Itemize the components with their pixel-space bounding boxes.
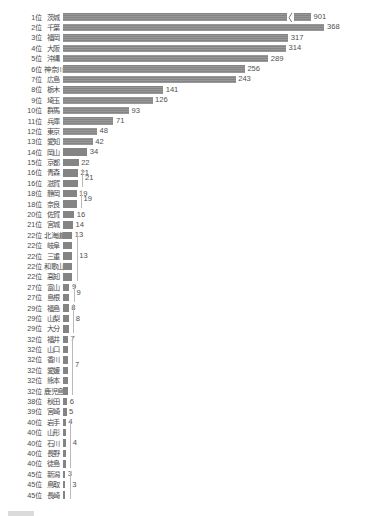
bar-track: 8 [63, 303, 382, 313]
bar [63, 429, 66, 436]
bar [63, 180, 78, 187]
chart-row: 22位岐阜 [0, 241, 382, 251]
bar [63, 148, 87, 155]
rank-label: 13位 [0, 138, 44, 145]
category-label: 沖縄 [44, 55, 63, 62]
bar-track: 13 [63, 230, 382, 240]
bar [63, 336, 68, 343]
tied-rank-bracket [77, 232, 78, 281]
value-label: 34 [90, 148, 98, 156]
chart-row: 38位秋田6 [0, 396, 382, 406]
category-label: 兵庫 [44, 118, 63, 125]
chart-row: 22位北海道13 [0, 230, 382, 240]
category-label: 愛媛 [44, 367, 63, 374]
rank-label: 22位 [0, 253, 44, 260]
bar [63, 294, 69, 301]
chart-row: 16位滋賀 [0, 178, 382, 188]
chart-row: 40位徒島 [0, 459, 382, 469]
rank-label: 16位 [0, 180, 44, 187]
bar [63, 128, 97, 135]
bar-track [63, 480, 382, 490]
rank-label: 29位 [0, 325, 44, 332]
bar [63, 419, 66, 426]
category-label: 山形 [44, 429, 63, 436]
bar [63, 138, 93, 145]
bar [63, 232, 72, 239]
bar-track [63, 272, 382, 282]
category-label: 三重 [44, 253, 63, 260]
category-label: 茨城 [44, 14, 63, 21]
bar [63, 315, 69, 322]
bar-track: 19 [63, 189, 382, 199]
chart-row: 27位富山9 [0, 282, 382, 292]
rank-label: 32位 [0, 367, 44, 374]
grouped-value-label: 7 [75, 361, 79, 369]
rank-label: 8位 [0, 86, 44, 93]
bar-track [63, 313, 382, 323]
tied-rank-bracket [81, 190, 82, 208]
rank-label: 27位 [0, 294, 44, 301]
bar [63, 304, 69, 311]
category-label: 静岡 [44, 190, 63, 197]
bar [63, 190, 77, 197]
bar [63, 55, 268, 62]
bar-track: 6 [63, 396, 382, 406]
grouped-value-label: 3 [72, 481, 76, 489]
category-label: 鹿児島 [44, 388, 63, 395]
rank-label: 40位 [0, 419, 44, 426]
chart-row: 22位三重 [0, 251, 382, 261]
bar [63, 34, 288, 41]
chart-row: 32位山口 [0, 345, 382, 355]
bar-track: 5 [63, 407, 382, 417]
rank-label: 22位 [0, 232, 44, 239]
chart-row: 29位大分 [0, 324, 382, 334]
bar-track [63, 251, 382, 261]
bar-track: 243 [63, 74, 382, 84]
grouped-value-label: 9 [76, 289, 80, 297]
bar [63, 356, 68, 363]
chart-row: 12位東京48 [0, 126, 382, 136]
value-label: 93 [132, 107, 140, 115]
chart-row: 18位奈良 [0, 199, 382, 209]
bar [63, 159, 79, 166]
bar-track [63, 459, 382, 469]
rank-label: 32位 [0, 377, 44, 384]
chart-row: 5位沖縄289 [0, 54, 382, 64]
rank-label: 32位 [0, 346, 44, 353]
grouped-value-label: 4 [73, 439, 77, 447]
rank-label: 5位 [0, 55, 44, 62]
category-label: 奈良 [44, 201, 63, 208]
category-label: 岐阜 [44, 242, 63, 249]
value-label: 368 [327, 23, 340, 31]
chart-row: 2位千葉368 [0, 22, 382, 32]
category-label: 福岡 [44, 34, 63, 41]
value-label: 317 [291, 34, 304, 42]
chart-row: 40位山形 [0, 428, 382, 438]
bar [63, 284, 69, 291]
rank-label: 7位 [0, 76, 44, 83]
category-label: 福井 [44, 336, 63, 343]
category-label: 千葉 [44, 24, 63, 31]
category-label: 福島 [44, 305, 63, 312]
chart-row: 9位埼玉126 [0, 95, 382, 105]
chart-row: 7位広島243 [0, 74, 382, 84]
chart-row: 3位福岡317 [0, 33, 382, 43]
bar [63, 211, 74, 218]
category-label: 大分 [44, 325, 63, 332]
bar [63, 221, 73, 228]
chart-footer-legend-clipped [0, 505, 382, 516]
bar-track [63, 241, 382, 251]
chart-row: 45位新潟3 [0, 469, 382, 479]
bar [63, 273, 72, 280]
category-label: 香川 [44, 356, 63, 363]
tied-rank-bracket [70, 471, 71, 500]
rank-label: 29位 [0, 305, 44, 312]
category-label: 島根 [44, 294, 63, 301]
rank-label: 32位 [0, 336, 44, 343]
bar [63, 450, 66, 457]
rank-label: 38位 [0, 398, 44, 405]
chart-row: 11位兵庫71 [0, 116, 382, 126]
bar-track: 93 [63, 106, 382, 116]
chart-row: 8位栃木141 [0, 85, 382, 95]
category-label: 北海道 [44, 232, 63, 239]
